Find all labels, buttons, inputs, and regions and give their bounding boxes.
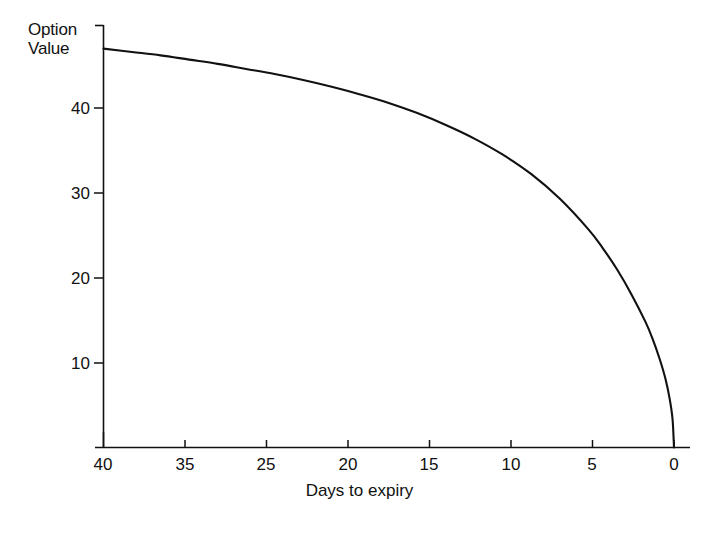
option-value-curve bbox=[104, 49, 675, 448]
plot-area bbox=[0, 0, 719, 533]
option-value-decay-chart: OptionValue Days to expiry 40 30 20 10 4… bbox=[0, 0, 719, 533]
axes bbox=[95, 25, 690, 448]
y-axis-ticks bbox=[94, 108, 104, 363]
x-axis-ticks bbox=[104, 432, 675, 448]
